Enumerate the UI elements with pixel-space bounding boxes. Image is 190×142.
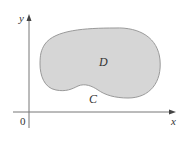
curve-label: C	[89, 93, 97, 105]
y-axis-label: y	[19, 13, 24, 24]
origin-label: 0	[20, 116, 26, 127]
region-diagram: y x 0 D C	[0, 0, 190, 142]
x-axis-label: x	[171, 116, 176, 127]
region-label: D	[99, 56, 108, 68]
y-axis-arrow-icon	[27, 14, 32, 21]
x-axis-arrow-icon	[169, 110, 176, 115]
diagram-canvas	[0, 0, 190, 142]
